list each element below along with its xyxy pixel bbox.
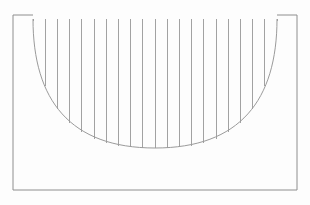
figure-canvas: [0, 0, 310, 205]
line-drawing-svg: [0, 0, 310, 205]
